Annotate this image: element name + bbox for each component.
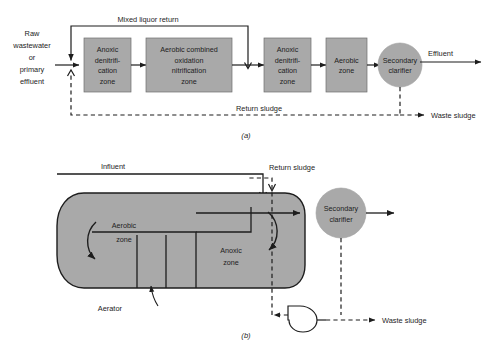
inlet-label-line-5: effluent: [20, 77, 44, 86]
caption-a: (a): [241, 131, 251, 140]
aerator-label: Aerator: [98, 304, 123, 313]
caption-b: (b): [241, 331, 251, 340]
return-sludge-label-b: Return sludge: [269, 163, 315, 172]
clarifier-a-line-1: Secondary: [383, 56, 418, 65]
pump-symbol: [288, 306, 326, 332]
aerobic-zone-label-line-2: zone: [116, 235, 132, 244]
zone-4-line-2: zone: [339, 66, 355, 75]
zone-1-line-1: Anoxic: [97, 45, 119, 54]
zone-2-line-4: zone: [181, 77, 197, 86]
anoxic-zone-label-line-2: zone: [223, 258, 239, 267]
zone-3-line-3: cation: [278, 66, 297, 75]
anoxic-zone-label-line-1: Anoxic: [220, 246, 242, 255]
clarifier-b-line-1: Secondary: [324, 204, 359, 213]
influent-label-b: Influent: [101, 162, 125, 171]
figure-canvas: Mixed liquor return Raw wastewater or pr…: [0, 0, 492, 351]
secondary-clarifier-b: [316, 188, 366, 238]
inlet-label-line-4: primary: [20, 65, 45, 74]
inlet-label-line-3: or: [29, 53, 36, 62]
aerator-leader-line: [151, 286, 158, 306]
secondary-clarifier-a: [378, 43, 422, 87]
zone-3-line-1: Anoxic: [277, 45, 299, 54]
zone-3-line-4: zone: [280, 77, 296, 86]
zone-4-line-1: Aerobic: [334, 56, 359, 65]
clarifier-a-line-2: clarifier: [388, 66, 412, 75]
zone-box-aerobic: [326, 38, 367, 92]
diagram-a: Mixed liquor return Raw wastewater or pr…: [12, 15, 481, 140]
inlet-label-line-2: wastewater: [12, 41, 51, 50]
zone-1-line-2: denitrifi-: [95, 56, 121, 65]
clarifier-b-line-2: clarifier: [329, 215, 353, 224]
return-sludge-up-arrow-a: [68, 70, 75, 76]
waste-sludge-label-a: Waste sludge: [431, 111, 476, 120]
oxidation-ditch-tank: [57, 193, 305, 288]
zone-1-line-4: zone: [100, 77, 116, 86]
zone-2-line-2: oxidation: [175, 56, 204, 65]
effluent-label-a: Effluent: [428, 49, 453, 58]
process-flow-figure: Mixed liquor return Raw wastewater or pr…: [0, 0, 492, 351]
aerobic-zone-label-line-1: Aerobic: [112, 221, 137, 230]
zone-2-line-1: Aerobic combined: [160, 45, 218, 54]
diagram-b: Influent Aerobic zone Anoxic zone Aerato…: [57, 162, 427, 340]
zone-1-line-3: cation: [98, 66, 117, 75]
zone-2-line-3: nitrification: [172, 66, 206, 75]
return-sludge-label-a: Return sludge: [236, 104, 282, 113]
zone-3-line-2: denitrifi-: [275, 56, 301, 65]
waste-sludge-label-b: Waste sludge: [382, 316, 427, 325]
inlet-label-line-1: Raw: [25, 29, 40, 38]
mixed-liquor-return-label: Mixed liquor return: [117, 15, 178, 24]
